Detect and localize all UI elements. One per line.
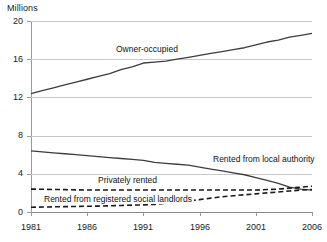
axis-baseline: [31, 212, 312, 213]
y-tick-label: 0: [0, 208, 23, 217]
x-tick-mark: [87, 212, 88, 216]
series-line: [31, 186, 312, 190]
y-tick-label: 12: [0, 93, 23, 102]
x-tick-label: 1986: [77, 223, 97, 232]
y-axis-unit-label: Millions: [7, 3, 38, 13]
y-tick-label: 4: [0, 169, 23, 178]
x-tick-label: 1996: [190, 223, 210, 232]
x-tick-mark: [312, 212, 313, 216]
series-label: Owner-occupied: [114, 45, 180, 54]
y-tick-label: 8: [0, 131, 23, 140]
y-tick-label: 16: [0, 55, 23, 64]
x-tick-label: 2006: [302, 223, 322, 232]
chart-container: Millions 048121620 198119861991199620012…: [0, 0, 327, 242]
series-label: Rented from registered social landlords: [42, 195, 194, 204]
x-tick-mark: [31, 212, 32, 216]
series-line: [31, 33, 312, 93]
series-label: Privately rented: [96, 176, 159, 185]
plot-area: Owner-occupiedRented from local authorit…: [31, 21, 312, 212]
x-tick-mark: [200, 212, 201, 216]
y-tick-label: 20: [0, 17, 23, 26]
series-label: Rented from local authority: [211, 155, 317, 164]
x-tick-label: 2001: [246, 223, 266, 232]
x-tick-mark: [143, 212, 144, 216]
x-tick-label: 1991: [133, 223, 153, 232]
x-tick-label: 1981: [21, 223, 41, 232]
x-tick-mark: [256, 212, 257, 216]
